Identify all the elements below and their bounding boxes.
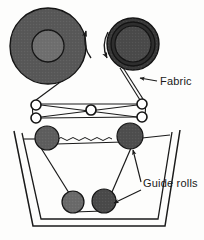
tension-roller-center[interactable] xyxy=(86,105,96,115)
guide-rolls-group xyxy=(35,123,143,213)
guide-rolls-leader-lower xyxy=(114,190,141,203)
fabric-label: Fabric xyxy=(160,75,192,87)
fabric-callout: Fabric xyxy=(140,75,192,87)
guide-roll-lower-left[interactable] xyxy=(62,191,84,213)
machine-diagram: Fabric Guide rolls xyxy=(0,0,204,240)
liquid-ripple xyxy=(58,138,112,141)
tension-roller-right-top[interactable] xyxy=(137,99,147,109)
takeup-roll[interactable] xyxy=(107,18,159,70)
guide-rolls-leader-upper xyxy=(133,150,141,182)
tension-roller-left-bottom[interactable] xyxy=(31,113,41,123)
guide-rolls-label: Guide rolls xyxy=(143,177,198,189)
diagram-root: Fabric Guide rolls xyxy=(0,0,204,240)
tension-roller-left-top[interactable] xyxy=(31,100,41,110)
guide-roll-upper-left[interactable] xyxy=(35,126,59,150)
guide-roll-lower-right[interactable] xyxy=(92,189,116,213)
tension-rollers-group xyxy=(31,99,147,123)
supply-roll[interactable] xyxy=(10,8,86,84)
fabric-leader-line xyxy=(140,78,157,81)
guide-roll-upper-right[interactable] xyxy=(117,123,143,149)
tension-roller-right-bottom[interactable] xyxy=(137,112,147,122)
